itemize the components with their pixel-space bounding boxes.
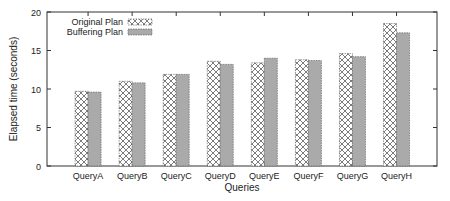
bar-original bbox=[207, 61, 220, 166]
bar-buffering bbox=[264, 58, 277, 166]
bar-original bbox=[295, 60, 308, 166]
x-axis-label: Queries bbox=[224, 182, 259, 193]
x-tick-label: QueryC bbox=[161, 171, 193, 181]
bar-buffering bbox=[352, 57, 365, 166]
x-tick-label: QueryH bbox=[381, 171, 412, 181]
legend-swatch bbox=[128, 29, 152, 35]
bars bbox=[75, 24, 409, 166]
legend: Original PlanBuffering Plan bbox=[67, 17, 152, 37]
bar-buffering bbox=[88, 92, 101, 166]
x-tick-label: QueryA bbox=[73, 171, 104, 181]
x-tick-label: QueryF bbox=[293, 171, 324, 181]
y-tick-label: 15 bbox=[31, 46, 41, 56]
y-axis-label: Elapsed time (seconds) bbox=[8, 37, 19, 142]
x-tick-label: QueryG bbox=[337, 171, 369, 181]
bar-original bbox=[119, 81, 132, 166]
x-tick-label: QueryE bbox=[249, 171, 280, 181]
y-tick-label: 5 bbox=[36, 123, 41, 133]
bar-original bbox=[163, 74, 176, 166]
x-tick-label: QueryD bbox=[205, 171, 237, 181]
bar-original bbox=[75, 91, 88, 166]
y-tick-label: 10 bbox=[31, 85, 41, 95]
bar-chart: 05101520QueryAQueryBQueryCQueryDQueryEQu… bbox=[0, 0, 450, 201]
bar-original bbox=[251, 63, 264, 166]
bar-buffering bbox=[308, 61, 321, 166]
legend-swatch bbox=[128, 19, 152, 25]
bar-original bbox=[384, 24, 397, 166]
bar-buffering bbox=[176, 74, 189, 166]
legend-label: Original Plan bbox=[71, 17, 123, 27]
legend-label: Buffering Plan bbox=[67, 27, 123, 37]
bar-buffering bbox=[220, 64, 233, 166]
y-tick-label: 0 bbox=[36, 162, 41, 172]
bar-original bbox=[339, 54, 352, 166]
bar-buffering bbox=[132, 83, 145, 166]
bar-buffering bbox=[397, 33, 410, 166]
x-tick-label: QueryB bbox=[117, 171, 148, 181]
y-tick-label: 20 bbox=[31, 8, 41, 18]
